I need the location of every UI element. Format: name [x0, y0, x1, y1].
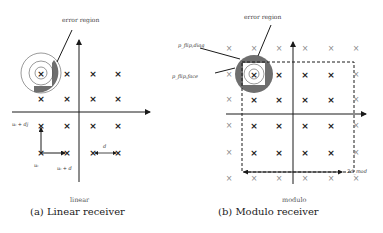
svg-text:×: ×: [114, 94, 122, 104]
label-u-plus-dj: uᵢ + dj: [12, 121, 28, 127]
svg-text:×: ×: [89, 69, 97, 79]
svg-text:×: ×: [250, 148, 258, 158]
svg-text:×: ×: [251, 174, 258, 183]
svg-text:×: ×: [250, 121, 258, 131]
pointer-line-a: [57, 30, 72, 62]
svg-text:×: ×: [63, 69, 71, 79]
svg-text:×: ×: [275, 70, 283, 80]
svg-text:×: ×: [226, 70, 233, 79]
svg-text:×: ×: [276, 174, 283, 183]
svg-text:×: ×: [328, 44, 335, 53]
svg-text:×: ×: [89, 121, 97, 131]
svg-text:×: ×: [250, 95, 258, 105]
svg-text:×: ×: [353, 44, 360, 53]
mode-label-a: linear: [70, 196, 89, 204]
svg-text:×: ×: [275, 148, 283, 158]
label-p-flip-face: p_flip,face: [172, 73, 198, 79]
svg-text:×: ×: [37, 94, 45, 104]
pointer-line-b: [258, 25, 271, 56]
svg-text:×: ×: [327, 95, 335, 105]
svg-text:×: ×: [251, 44, 258, 53]
svg-text:×: ×: [327, 70, 335, 80]
svg-text:×: ×: [114, 121, 122, 131]
svg-text:×: ×: [226, 44, 233, 53]
svg-text:×: ×: [302, 174, 309, 183]
svg-text:×: ×: [302, 44, 309, 53]
svg-text:×: ×: [328, 174, 335, 183]
error-region-label-b: error region: [244, 13, 281, 20]
svg-text:×: ×: [301, 70, 309, 80]
label-2d-mod: 2d_mod: [347, 168, 367, 174]
svg-text:×: ×: [353, 148, 360, 157]
svg-text:×: ×: [301, 95, 309, 105]
panel-a-linear: ×××× ×××× ×××× ××××: [12, 30, 150, 182]
svg-text:×: ×: [275, 95, 283, 105]
svg-text:×: ×: [353, 70, 360, 79]
svg-text:×: ×: [63, 94, 71, 104]
svg-text:×: ×: [226, 148, 233, 157]
svg-text:×: ×: [226, 95, 233, 104]
svg-text:×: ×: [301, 121, 309, 131]
svg-text:×: ×: [226, 121, 233, 130]
error-region-label-a: error region: [62, 16, 99, 23]
figure-canvas: ×××× ×××× ×××× ×××× ×××× ××××: [0, 0, 383, 233]
caption-a: (a) Linear receiver: [30, 206, 125, 217]
label-u: uᵢ: [34, 162, 38, 168]
svg-text:×: ×: [301, 148, 309, 158]
label-u-plus-d: uᵢ + d: [57, 165, 72, 171]
svg-text:×: ×: [275, 121, 283, 131]
svg-text:×: ×: [353, 121, 360, 130]
svg-text:×: ×: [353, 95, 360, 104]
svg-text:×: ×: [327, 121, 335, 131]
svg-text:×: ×: [327, 148, 335, 158]
svg-text:×: ×: [63, 121, 71, 131]
svg-text:×: ×: [89, 94, 97, 104]
caption-b: (b) Modulo receiver: [218, 206, 319, 217]
pointer-diag: [200, 48, 240, 59]
svg-text:×: ×: [276, 44, 283, 53]
panel-b-modulo: ×××× ×××× ×××× ×××× ×××××× ×× ×× ×× ×× ×…: [200, 25, 366, 184]
svg-text:×: ×: [250, 70, 258, 80]
svg-text:×: ×: [226, 174, 233, 183]
svg-text:×: ×: [37, 69, 45, 79]
mode-label-b: modulo: [282, 196, 306, 204]
svg-text:×: ×: [114, 69, 122, 79]
label-d: d: [103, 143, 106, 149]
label-p-flip-diag: p_flip,diag: [178, 42, 204, 48]
svg-text:×: ×: [353, 174, 360, 183]
